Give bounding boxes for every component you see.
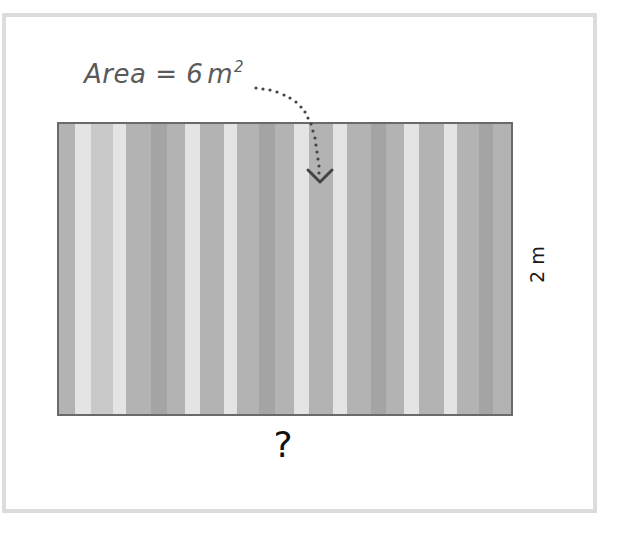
stripe-dark (259, 124, 275, 414)
stripe-dark (479, 124, 493, 414)
height-label: 2 m (526, 247, 550, 283)
area-annotation: Area = 6m2 (84, 58, 244, 89)
stripe-light (404, 124, 419, 414)
stripe-light (185, 124, 200, 414)
area-prefix: Area = 6 (84, 59, 203, 89)
area-exponent: 2 (234, 58, 244, 76)
striped-rectangle (57, 122, 513, 416)
stripe-light (333, 124, 347, 414)
stripe-light (444, 124, 457, 414)
stripe-dark (151, 124, 167, 414)
area-unit: m (207, 59, 233, 89)
stripe-dark (371, 124, 386, 414)
stripe-light (294, 124, 309, 414)
unknown-width-label: ? (266, 424, 300, 465)
stripe-light (224, 124, 237, 414)
stripe-mid (91, 124, 113, 414)
stripe-light (75, 124, 91, 414)
stripe-light (113, 124, 126, 414)
